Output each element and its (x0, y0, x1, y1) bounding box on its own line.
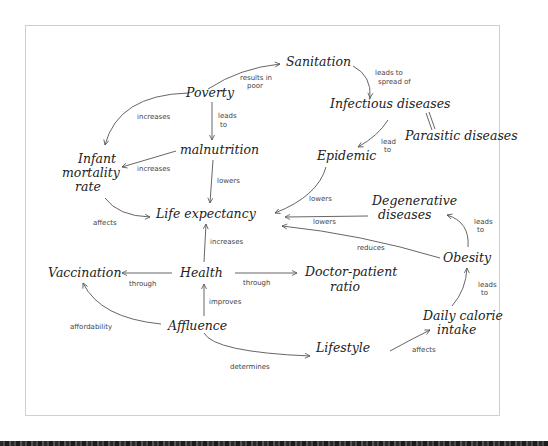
edge-obesity-life (282, 226, 440, 258)
edge-health-life (204, 224, 206, 262)
node-life-expectancy: Life expectancy (155, 206, 257, 221)
node-affluence: Affluence (167, 318, 227, 333)
label-increases-malnutrition: increases (137, 165, 171, 173)
edge-infectious-parasitic-2 (429, 112, 435, 129)
edge-sanitation-infectious (353, 66, 370, 98)
node-infant-line3: rate (75, 179, 101, 194)
label-lowers-malnutrition: lowers (217, 177, 240, 185)
node-degenerative-line1: Degenerative (371, 193, 457, 208)
label-results-in: results in (240, 74, 272, 82)
label-improves: improves (209, 298, 242, 306)
edge-obesity-degenerative (447, 215, 468, 247)
node-infant-line1: Infant (77, 151, 117, 166)
label-to-degenerative: to (477, 226, 484, 234)
node-doctor-line2: ratio (330, 279, 360, 294)
node-doctor-line1: Doctor-patient (304, 264, 398, 279)
label-spread-of: spread of (378, 78, 411, 86)
node-degenerative-diseases: Degenerative diseases (371, 193, 457, 222)
label-reduces: reduces (357, 244, 385, 252)
edge-calorie-obesity (452, 268, 467, 306)
node-sanitation: Sanitation (286, 54, 351, 69)
bottom-texture-band (0, 441, 548, 446)
node-health: Health (179, 265, 223, 280)
node-calorie-line1: Daily calorie (422, 308, 503, 323)
node-poverty: Poverty (185, 85, 235, 100)
edge-infant-life (105, 198, 150, 217)
node-daily-calorie-intake: Daily calorie intake (422, 308, 503, 337)
label-leads: leads (218, 112, 237, 120)
label-through-doctor: through (243, 279, 271, 287)
label-affects: affects (93, 219, 117, 227)
edge-malnutrition-life (210, 160, 213, 203)
label-through-vaccination: through (129, 280, 157, 288)
label-leads-degenerative: leads (474, 218, 493, 226)
node-infant-mortality-rate: Infant mortality rate (62, 151, 121, 194)
node-parasitic-diseases: Parasitic diseases (404, 128, 518, 143)
label-increases-health: increases (210, 238, 244, 246)
node-vaccination: Vaccination (48, 265, 121, 280)
edge-epidemic-life (275, 167, 326, 213)
concept-map: results in poor leads to spread of incre… (0, 0, 548, 446)
node-malnutrition: malnutrition (180, 142, 259, 157)
label-affordability: affordability (70, 323, 112, 331)
node-lifestyle: Lifestyle (315, 340, 370, 355)
label-to-obesity: to (481, 289, 488, 297)
label-leads-obesity: leads (478, 281, 497, 289)
node-degenerative-line2: diseases (378, 207, 432, 222)
label-to: to (220, 121, 227, 129)
node-obesity: Obesity (443, 250, 492, 265)
label-poor: poor (247, 82, 263, 90)
label-determines: determines (230, 363, 270, 371)
nodes: Sanitation Poverty Infectious diseases P… (48, 54, 518, 355)
label-leads-to: leads to (375, 69, 403, 77)
node-infant-line2: mortality (62, 165, 121, 180)
node-infectious-diseases: Infectious diseases (329, 96, 451, 111)
edge-degenerative-life (285, 216, 368, 217)
label-lead: lead (381, 138, 396, 146)
node-calorie-line2: intake (437, 322, 477, 337)
edge-affluence-lifestyle (204, 333, 310, 356)
edge-labels: results in poor leads to spread of incre… (70, 69, 497, 371)
label-lowers-epidemic: lowers (309, 195, 332, 203)
edge-affluence-vaccination (83, 283, 161, 324)
node-epidemic: Epidemic (316, 148, 376, 163)
label-lead-to: to (384, 146, 391, 154)
label-lowers-degenerative: lowers (313, 218, 336, 226)
label-increases-infant: increases (137, 113, 171, 121)
node-doctor-patient-ratio: Doctor-patient ratio (304, 264, 398, 294)
label-affects-lifestyle: affects (412, 346, 436, 354)
